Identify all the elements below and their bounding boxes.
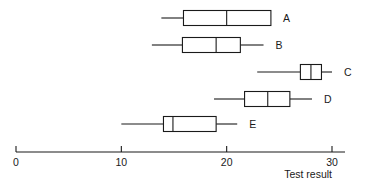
x-axis-group: 0102030	[13, 146, 345, 168]
box-iqr-rect	[182, 38, 240, 53]
boxplot-chart: ABCDE 0102030 Test result	[0, 0, 368, 187]
series-label-d: D	[324, 93, 332, 105]
box-plot-item-c: C	[257, 65, 352, 80]
x-axis-title: Test result	[284, 168, 332, 180]
series-label-b: B	[276, 39, 283, 51]
x-tick-label-10: 10	[115, 156, 127, 168]
series-label-a: A	[283, 12, 290, 24]
box-plot-item-a: A	[161, 11, 290, 26]
box-series-group: ABCDE	[121, 11, 352, 132]
boxplot-canvas: ABCDE 0102030 Test result	[0, 0, 368, 187]
x-axis-ticks: 0102030	[13, 146, 338, 168]
x-tick-label-20: 20	[221, 156, 233, 168]
x-tick-label-0: 0	[13, 156, 19, 168]
box-plot-item-d: D	[214, 92, 332, 107]
x-tick-label-30: 30	[326, 156, 338, 168]
box-plot-item-e: E	[121, 117, 256, 132]
series-label-e: E	[249, 118, 256, 130]
box-plot-item-b: B	[152, 38, 283, 53]
series-label-c: C	[344, 66, 352, 78]
box-iqr-rect	[163, 117, 216, 132]
